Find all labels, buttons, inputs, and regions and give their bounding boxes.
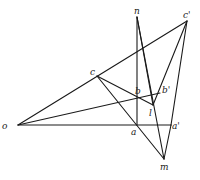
geometry-diagram: o a a' c c' n b b' l m	[0, 0, 200, 180]
edge-c2-a2	[171, 21, 187, 125]
point-label-a-prime: a'	[172, 121, 180, 131]
point-label-b: b	[135, 86, 141, 96]
point-label-m: m	[160, 162, 169, 172]
point-label-a: a	[131, 127, 136, 137]
edge-o-c2	[18, 21, 187, 125]
point-label-c: c	[90, 67, 95, 77]
point-label-b-prime: b'	[162, 85, 170, 95]
edge-c-m	[97, 76, 164, 159]
point-label-o: o	[2, 121, 8, 131]
point-label-l: l	[149, 108, 152, 118]
edge-a2-m	[164, 125, 171, 159]
point-label-c-prime: c'	[183, 10, 191, 20]
point-label-n: n	[134, 6, 140, 16]
